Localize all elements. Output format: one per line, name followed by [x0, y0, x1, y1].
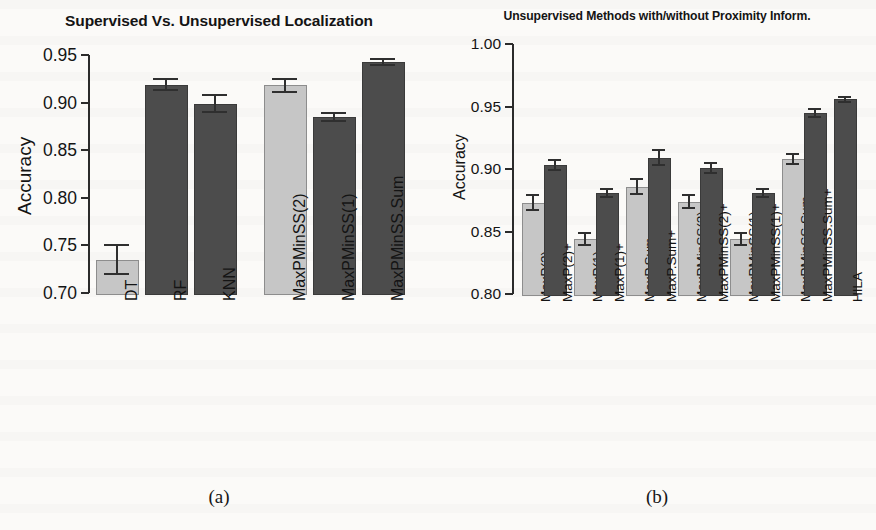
error-bar-cap-upper — [652, 149, 665, 151]
chart-a-title: Supervised Vs. Unsupervised Localization — [0, 12, 438, 30]
error-bar-cap-lower — [548, 169, 561, 171]
y-axis-tick-label: 0.90 — [21, 93, 77, 114]
error-bar-cap-lower — [104, 273, 129, 275]
y-axis-tick-label: 0.80 — [455, 285, 501, 303]
error-bar-cap-lower — [578, 244, 591, 246]
error-bar — [214, 95, 216, 112]
error-bar — [532, 195, 534, 210]
error-bar-cap-upper — [704, 162, 717, 164]
x-axis-category-label: MaxP(2)+ — [560, 243, 575, 302]
y-axis-tick-mark — [505, 293, 513, 295]
y-axis-tick-mark — [505, 106, 513, 108]
error-bar-cap-lower — [202, 111, 227, 113]
y-axis-tick-mark — [81, 102, 89, 104]
error-bar-cap-lower — [600, 196, 613, 198]
error-bar-cap-upper — [682, 194, 695, 196]
chart-b-title: Unsupervised Methods with/without Proxim… — [438, 9, 876, 23]
error-bar — [284, 79, 286, 92]
bar — [145, 85, 188, 295]
y-axis-tick-label: 0.95 — [455, 98, 501, 116]
error-bar-cap-lower — [272, 91, 297, 93]
error-bar-cap-upper — [202, 94, 227, 96]
x-axis-category-label: MaxPMinSS(1) — [340, 193, 358, 301]
panel-b-caption: (b) — [438, 486, 876, 508]
panel-a-caption: (a) — [0, 486, 438, 508]
x-axis-category-label: HILA — [850, 272, 865, 302]
x-axis-category-label: MaxP.Sum+ — [664, 230, 679, 302]
y-axis-tick-mark — [505, 43, 513, 45]
error-bar-cap-upper — [786, 153, 799, 155]
error-bar-cap-upper — [370, 58, 395, 60]
y-axis-tick-mark — [505, 168, 513, 170]
x-axis-category-label: MaxPMinSS.Sum — [389, 176, 407, 301]
y-axis-tick-label: 0.85 — [21, 140, 77, 161]
error-bar-cap-upper — [526, 194, 539, 196]
y-axis-tick-label: 0.90 — [455, 160, 501, 178]
error-bar-cap-lower — [704, 172, 717, 174]
error-bar-cap-lower — [838, 101, 851, 103]
error-bar-cap-lower — [786, 163, 799, 165]
x-axis-category-label: DT — [123, 280, 141, 301]
error-bar-cap-upper — [630, 178, 643, 180]
y-axis-tick-label: 0.85 — [455, 223, 501, 241]
error-bar-cap-upper — [272, 78, 297, 80]
y-axis-tick-label: 0.80 — [21, 188, 77, 209]
error-bar-cap-upper — [838, 96, 851, 98]
x-axis-category-label: RF — [172, 280, 190, 301]
x-axis-category-label: MaxPMinSS(2)+ — [716, 203, 731, 302]
error-bar-cap-lower — [682, 207, 695, 209]
y-axis-tick-mark — [81, 197, 89, 199]
x-axis-category-label: MaxP(1)+ — [612, 243, 627, 302]
error-bar-cap-lower — [756, 196, 769, 198]
chart-panel-a: Supervised Vs. Unsupervised Localization… — [0, 0, 438, 530]
y-axis-tick-label: 0.75 — [21, 235, 77, 256]
error-bar-cap-upper — [153, 78, 178, 80]
chart-panel-b: Unsupervised Methods with/without Proxim… — [438, 0, 876, 530]
y-axis-tick-mark — [505, 231, 513, 233]
error-bar-cap-lower — [321, 120, 346, 122]
error-bar-cap-upper — [756, 188, 769, 190]
x-axis-category-label: MaxPMinSS.Sum+ — [820, 188, 835, 302]
y-axis-tick-label: 0.95 — [21, 45, 77, 66]
error-bar — [636, 179, 638, 194]
y-axis-tick-label: 1.00 — [455, 35, 501, 53]
y-axis-spine — [88, 55, 90, 293]
x-axis-category-label: MaxPMinSS(1)+ — [768, 203, 783, 302]
y-axis-tick-mark — [81, 292, 89, 294]
error-bar-cap-lower — [630, 193, 643, 195]
error-bar-cap-lower — [370, 64, 395, 66]
x-axis-category-label: MaxPMinSS(2) — [291, 193, 309, 301]
error-bar-cap-upper — [808, 108, 821, 110]
x-axis-category-label: KNN — [221, 267, 239, 301]
error-bar-cap-lower — [808, 116, 821, 118]
error-bar-cap-upper — [104, 244, 129, 246]
error-bar-cap-lower — [652, 164, 665, 166]
error-bar-cap-upper — [548, 159, 561, 161]
y-axis-tick-mark — [81, 54, 89, 56]
error-bar — [658, 150, 660, 165]
y-axis-tick-label: 0.70 — [21, 283, 77, 304]
error-bar-cap-lower — [153, 89, 178, 91]
bar — [834, 99, 857, 296]
error-bar-cap-upper — [600, 188, 613, 190]
error-bar-cap-upper — [321, 112, 346, 114]
y-axis-tick-mark — [81, 244, 89, 246]
y-axis-tick-mark — [81, 149, 89, 151]
error-bar-cap-upper — [578, 232, 591, 234]
error-bar — [116, 245, 118, 274]
error-bar-cap-lower — [526, 209, 539, 211]
figure-container: Supervised Vs. Unsupervised Localization… — [0, 0, 876, 530]
